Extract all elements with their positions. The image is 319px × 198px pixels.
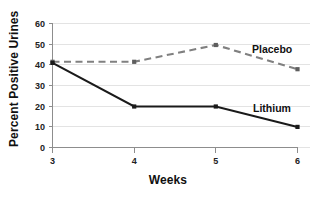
x-tick-labels: 3 4 5 6 [50,156,300,166]
x-tick-label-5: 5 [213,156,218,166]
placebo-point-week5 [214,43,218,47]
x-axis-title: Weeks [149,173,188,187]
placebo-point-week4 [132,60,136,64]
series-lithium [50,61,299,129]
y-tick-label-50: 50 [35,40,45,50]
y-tick-label-60: 60 [35,19,45,29]
series-label-placebo: Placebo [252,43,292,55]
x-tick-label-6: 6 [295,156,300,166]
lithium-line [53,63,298,127]
y-tick-label-10: 10 [35,122,45,132]
x-axis [53,148,298,153]
y-axis [49,23,53,148]
y-tick-label-40: 40 [35,60,45,70]
lithium-point-week6 [295,125,299,129]
y-axis-title: Percent Positive Urines [7,10,21,147]
placebo-point-week6 [295,67,299,71]
lithium-point-week3 [50,61,54,65]
x-tick-label-4: 4 [132,156,137,166]
y-tick-label-0: 0 [40,143,45,153]
x-tick-label-3: 3 [50,156,55,166]
chart-canvas: 60 50 40 30 20 10 0 3 4 5 6 [0,0,319,198]
y-tick-label-30: 30 [35,81,45,91]
lithium-point-week5 [214,104,218,108]
y-tick-labels: 60 50 40 30 20 10 0 [35,19,45,153]
line-chart: 60 50 40 30 20 10 0 3 4 5 6 [0,0,319,198]
series-label-lithium: Lithium [253,102,291,114]
y-tick-label-20: 20 [35,102,45,112]
lithium-point-week4 [132,104,136,108]
